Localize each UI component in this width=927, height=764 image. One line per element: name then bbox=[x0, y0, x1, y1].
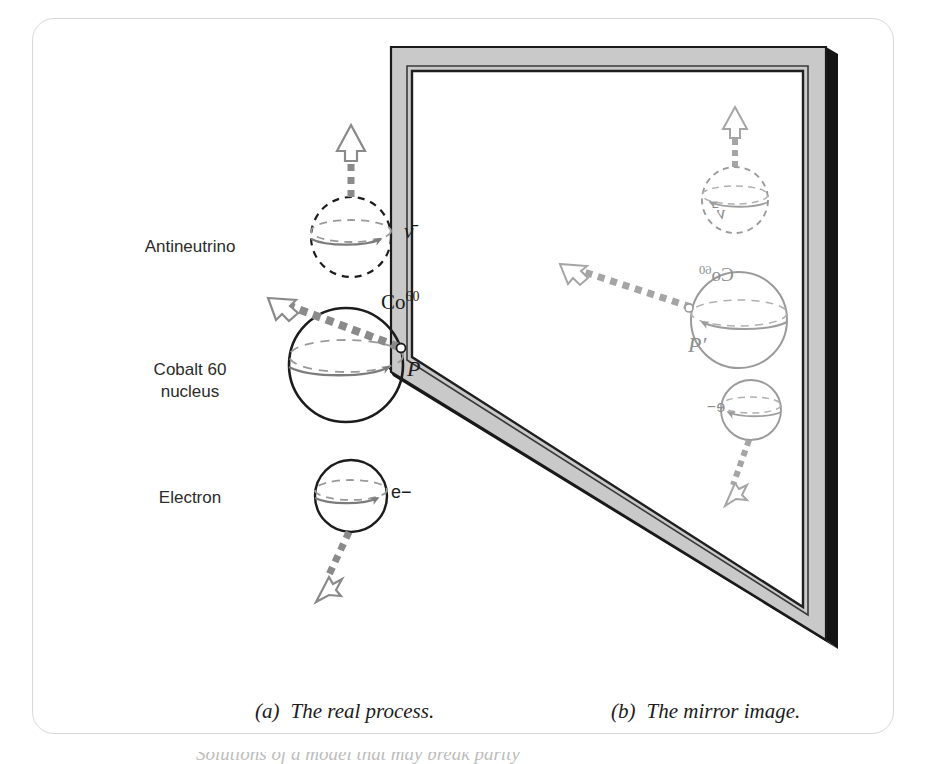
antineutrino-sphere bbox=[311, 197, 391, 277]
row-label-antineutrino: Antineutrino bbox=[95, 236, 285, 258]
cobalt-momentum-arrow bbox=[268, 298, 399, 347]
caption-b-text: The mirror image. bbox=[647, 699, 801, 723]
cobalt-mass-number: 60 bbox=[406, 289, 420, 304]
figure-card: Antineutrino Cobalt 60 nucleus Electron … bbox=[32, 18, 894, 734]
antineutrino-equator-back bbox=[311, 220, 391, 242]
row-label-cobalt-nucleus: Cobalt 60 nucleus bbox=[95, 359, 285, 404]
point-label-P: P bbox=[407, 356, 420, 382]
caption-a: (a)The real process. bbox=[255, 699, 434, 724]
electron-sphere bbox=[315, 460, 387, 532]
antineutrino-momentum-arrow bbox=[337, 125, 365, 197]
mirror-antineutrino-symbol: ν̄ bbox=[717, 202, 725, 224]
real-antineutrino bbox=[311, 125, 391, 277]
mirror-cobalt-60-symbol: Co60 bbox=[699, 263, 734, 286]
caption-a-text: The real process. bbox=[291, 699, 435, 723]
electron-symbol: e− bbox=[391, 482, 412, 503]
clipped-bottom-text-strip: Solutions of a model that may break pari… bbox=[0, 752, 927, 764]
mirror-cobalt-element-symbol: Co bbox=[712, 264, 734, 285]
caption-b: (b)The mirror image. bbox=[611, 699, 800, 724]
caption-a-tag: (a) bbox=[255, 699, 280, 723]
mirror-point-label-P-prime: P′ bbox=[688, 332, 706, 358]
real-electron bbox=[315, 460, 387, 602]
mirror-cobalt-mass-number: 60 bbox=[699, 263, 712, 277]
mirror-electron-symbol: e− bbox=[707, 398, 725, 416]
electron-equator-back bbox=[315, 480, 387, 500]
mirror-glass bbox=[412, 71, 803, 607]
caption-b-tag: (b) bbox=[611, 699, 636, 723]
clipped-bottom-text: Solutions of a model that may break pari… bbox=[196, 752, 520, 764]
cobalt-point-P bbox=[397, 344, 406, 353]
mirror-depth-right bbox=[826, 47, 838, 649]
mirror-object bbox=[388, 47, 838, 649]
real-cobalt-nucleus bbox=[268, 298, 406, 422]
cobalt-element-symbol: Co bbox=[381, 290, 406, 314]
electron-momentum-arrow bbox=[316, 532, 349, 602]
antineutrino-symbol: ν̄ bbox=[404, 219, 413, 244]
cobalt-60-symbol: Co60 bbox=[381, 289, 419, 315]
row-label-electron: Electron bbox=[95, 487, 285, 509]
mirror-cobalt-point-P bbox=[685, 304, 693, 312]
